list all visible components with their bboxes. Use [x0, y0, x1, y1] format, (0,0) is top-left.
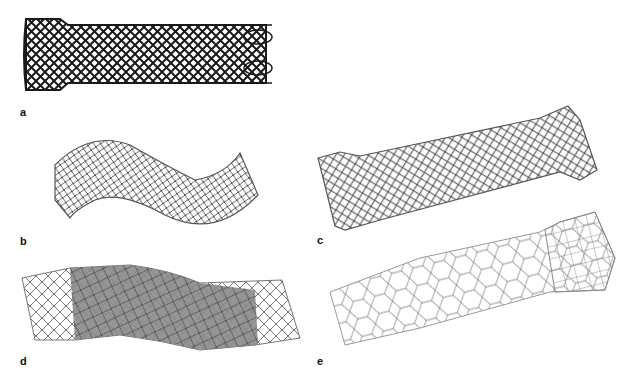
panel-label-d: d	[20, 355, 27, 367]
stent-image-c	[318, 106, 597, 230]
stent-image-b	[55, 141, 258, 224]
stent-image-e	[330, 212, 615, 345]
panel-label-e: e	[317, 355, 323, 367]
stent-image-d	[22, 265, 300, 350]
panel-label-c: c	[317, 234, 323, 246]
stent-image-a	[24, 19, 272, 90]
figure-canvas	[0, 0, 631, 381]
panel-label-a: a	[20, 106, 26, 118]
panel-label-b: b	[20, 235, 27, 247]
